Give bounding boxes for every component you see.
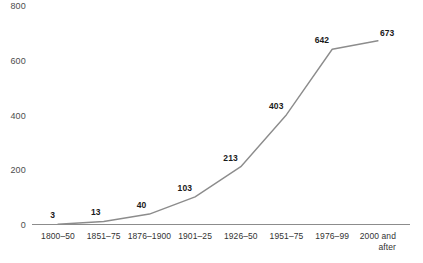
x-axis-tick-label: 1926–50 xyxy=(224,231,258,242)
plot-area: 31340103213403642673 xyxy=(32,6,410,225)
y-axis-tick-200: 200 xyxy=(10,165,26,175)
x-tick-line-1: 1851–75 xyxy=(87,231,121,241)
data-point-label: 213 xyxy=(223,153,237,162)
data-point-label: 642 xyxy=(315,36,329,45)
x-tick-line-1: 1876–1900 xyxy=(128,231,171,241)
x-axis-tick-label: 1876–1900 xyxy=(128,231,171,242)
data-point-label: 673 xyxy=(380,28,394,37)
y-axis-tick-600: 600 xyxy=(10,56,26,66)
x-tick-line-1: 1800–50 xyxy=(41,231,75,241)
data-point-label: 3 xyxy=(50,211,55,220)
series-line-svg xyxy=(32,6,410,225)
x-axis-tick-label: 2000 andafter xyxy=(360,231,396,253)
x-axis-tick-label: 1976–99 xyxy=(315,231,349,242)
series-line xyxy=(58,41,378,224)
x-tick-line-1: 1926–50 xyxy=(224,231,258,241)
x-tick-line-1: 2000 and xyxy=(360,231,396,241)
x-tick-line-1: 1951–75 xyxy=(270,231,304,241)
x-axis-tick-label: 1951–75 xyxy=(270,231,304,242)
line-chart: 0200400600800 31340103213403642673 1800–… xyxy=(0,0,423,263)
y-axis-tick-400: 400 xyxy=(10,111,26,121)
x-axis-tick-label: 1800–50 xyxy=(41,231,75,242)
x-axis-tick-label: 1851–75 xyxy=(87,231,121,242)
x-tick-line-1: 1976–99 xyxy=(315,231,349,241)
y-axis-tick-labels: 0200400600800 xyxy=(0,0,26,263)
x-tick-line-1: 1901–25 xyxy=(178,231,212,241)
y-axis-tick-0: 0 xyxy=(21,220,26,230)
x-axis-line xyxy=(32,224,410,225)
x-axis-tick-label: 1901–25 xyxy=(178,231,212,242)
data-point-label: 40 xyxy=(137,201,147,210)
y-axis-tick-800: 800 xyxy=(10,1,26,11)
data-point-label: 103 xyxy=(178,183,192,192)
x-axis-tick-labels: 1800–501851–751876–19001901–251926–50195… xyxy=(32,231,410,261)
data-point-label: 13 xyxy=(91,208,101,217)
data-point-label: 403 xyxy=(269,101,283,110)
x-tick-line-2: after xyxy=(360,242,396,253)
